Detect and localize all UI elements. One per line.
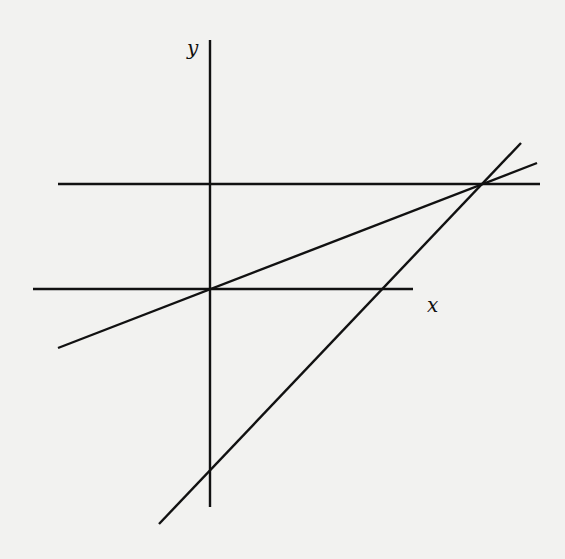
y-axis-label: y — [186, 36, 199, 60]
x-axis-label: x — [427, 293, 438, 317]
steep-line — [159, 143, 521, 524]
line-through-origin — [58, 163, 537, 348]
diagram-canvas: y x — [0, 0, 565, 559]
